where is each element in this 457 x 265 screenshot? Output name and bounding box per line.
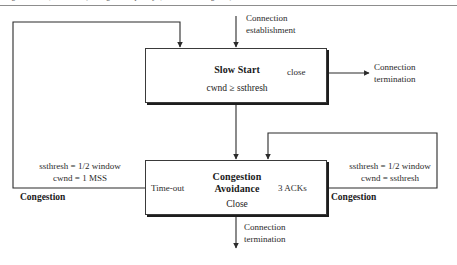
label-left-event-congestion: Congestion [20,192,140,203]
figure-container: Figure 24.8 (continued) Congestion polic… [0,0,457,265]
label-left-action-line2: cwnd = 1 MSS [20,173,140,184]
transition-label-time-out: Time-out [151,183,184,194]
label-connection-termination-bottom-line2: termination [244,234,286,245]
label-connection-termination-right-line1: Connection [374,62,416,73]
label-connection-termination-right-line2: termination [374,74,416,85]
state-condition-congestion-avoidance: Close [146,199,328,210]
state-title-congestion-avoidance-line1: Congestion [146,171,328,183]
label-right-action-line2: cwnd = ssthresh [330,173,450,184]
label-connection-termination-bottom-line1: Connection [244,222,286,233]
state-box-congestion-avoidance[interactable]: Congestion Avoidance Close Time-out 3 AC… [145,160,327,215]
transition-label-close: close [287,67,306,78]
label-left-action-line1: ssthresh = 1/2 window [20,161,140,172]
state-condition-slow-start: cwnd ≥ ssthresh [146,83,328,94]
transition-label-three-acks: 3 ACKs [278,183,307,194]
label-connection-establishment-line1: Connection [246,13,288,24]
diagram-edges [0,0,457,265]
label-right-event-congestion: Congestion [331,192,376,203]
label-connection-establishment-line2: establishment [246,25,296,36]
label-right-action-line1: ssthresh = 1/2 window [330,161,450,172]
